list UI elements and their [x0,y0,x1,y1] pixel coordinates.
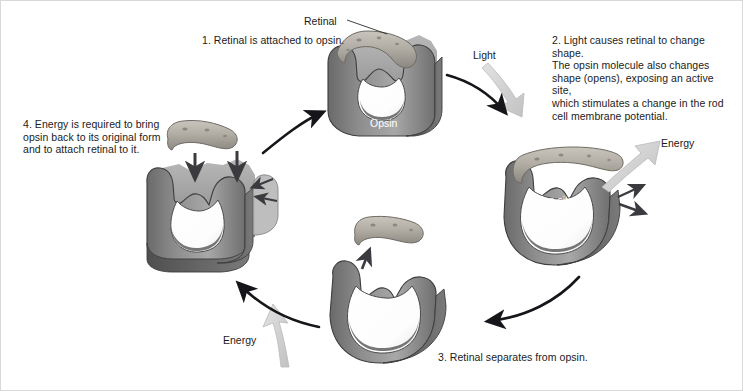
retinal-texture-dot [205,129,210,132]
energy-label-right: Energy [661,137,694,149]
retinal-texture-dot [587,155,591,158]
membrane-potential-arrow-upper [618,186,642,197]
retinal-texture-dot [370,223,375,226]
retinal-texture-dot [409,229,413,232]
retinal-texture-dot [607,159,611,161]
retinal-texture-dot [223,135,227,138]
retinal-texture-dot [377,37,381,40]
step-2-caption: 2. Light causes retinal to change shape.… [552,34,734,122]
step-1-caption: 1. Retinal is attached to opsin. [202,34,344,47]
arrow-step2-to-step3 [490,277,579,321]
retinal-texture-dot [395,43,399,46]
step3-detached-retinal [355,216,424,245]
step-3-caption: 3. Retinal separates from opsin. [438,351,588,364]
retinal-texture-dot [559,154,564,157]
energy-input-arrow [263,304,289,367]
retinal-texture-dot [356,38,361,41]
active-site-label: Active site [526,194,574,206]
retinal-label: Retinal [304,15,337,27]
retinal-opsin-cycle-figure: 1. Retinal is attached to opsin. 2. Ligh… [0,0,743,391]
energy-input-arrow-shape [263,304,289,367]
retinal-texture-dot [393,224,398,227]
retinal-texture-dot [534,157,539,160]
step-4-caption: 4. Energy is required to bring opsin bac… [23,118,191,156]
opsin-label: Opsin [370,117,397,129]
membrane-potential-arrow-lower [619,204,644,213]
energy-label-bottom: Energy [223,334,256,346]
step3-molecule-group [330,216,446,363]
retinal-release-arrow [362,251,369,269]
step2-molecule-group [504,147,644,265]
step4-ghost-lobe [253,175,278,235]
light-label: Light [473,49,496,61]
arrow-step4-to-step1 [263,113,321,153]
retinal-texture-dot [346,49,350,51]
